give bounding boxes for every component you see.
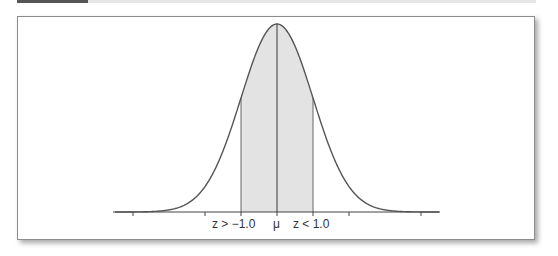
label-mu: μ [273, 217, 280, 231]
label-z-lower: z > −1.0 [212, 217, 255, 231]
label-z-upper: z < 1.0 [293, 217, 329, 231]
